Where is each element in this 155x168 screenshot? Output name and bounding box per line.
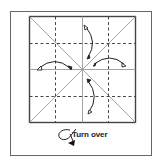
turn-over-arrowhead-icon: [68, 140, 75, 146]
turn-over-caption: Turn over: [72, 130, 107, 139]
origami-diagram: [0, 0, 155, 168]
